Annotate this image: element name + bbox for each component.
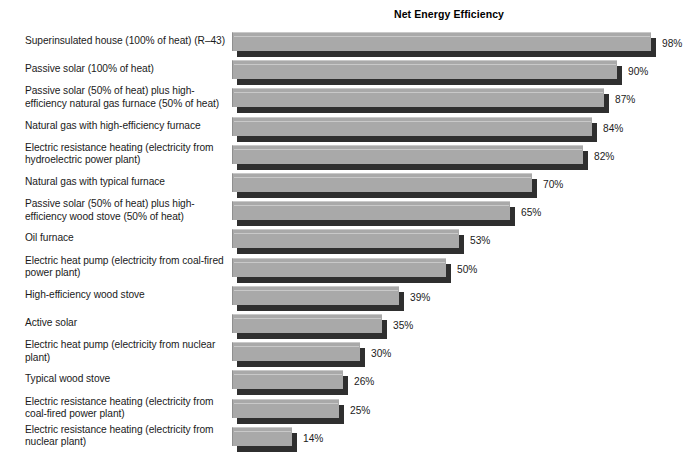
bar-face xyxy=(232,427,292,446)
bar-row: Natural gas with high-efficiency furnace… xyxy=(0,117,699,143)
bar-row-label: Natural gas with high-efficiency furnace xyxy=(25,120,230,132)
chart-root: Net Energy Efficiency Superinsulated hou… xyxy=(0,0,699,473)
bar-value-label: 82% xyxy=(594,151,614,163)
bar-face xyxy=(232,342,360,361)
bar-row-label-line: coal-fired power plant) xyxy=(25,408,230,420)
bar-row-label-line: Electric heat pump (electricity from nuc… xyxy=(25,339,230,351)
bar-face xyxy=(232,88,604,107)
bar-rows-container: Superinsulated house (100% of heat) (R–4… xyxy=(0,0,699,473)
bar xyxy=(232,342,367,368)
bar-face xyxy=(232,201,510,220)
bar-row-label-line: Typical wood stove xyxy=(25,373,230,385)
bar-row-label-line: Electric resistance heating (electricity… xyxy=(25,424,230,436)
bar-face xyxy=(232,399,339,418)
bar-value-label: 70% xyxy=(543,179,563,191)
bar-row-label-line: High-efficiency wood stove xyxy=(25,289,230,301)
bar-row: Superinsulated house (100% of heat) (R–4… xyxy=(0,32,699,58)
bar-row: Passive solar (50% of heat) plus high-ef… xyxy=(0,201,699,227)
bar-row-label: Oil furnace xyxy=(25,232,230,244)
bar-face xyxy=(232,314,382,333)
bar-value-label: 35% xyxy=(393,320,413,332)
bar-row-label-line: plant) xyxy=(25,352,230,364)
bar-value-label: 65% xyxy=(521,207,541,219)
bar xyxy=(232,32,658,58)
bar xyxy=(232,117,599,143)
bar-row-label-line: Electric resistance heating (electricity… xyxy=(25,396,230,408)
bar-face xyxy=(232,286,399,305)
bar-row: Typical wood stove26% xyxy=(0,370,699,396)
bar xyxy=(232,399,346,425)
bar-row: Electric heat pump (electricity from coa… xyxy=(0,258,699,284)
bar-row: Passive solar (50% of heat) plus high-ef… xyxy=(0,88,699,114)
bar-value-label: 14% xyxy=(303,433,323,445)
bar-row-label-line: Electric resistance heating (electricity… xyxy=(25,142,230,154)
bar-row-label: High-efficiency wood stove xyxy=(25,289,230,301)
bar-value-label: 30% xyxy=(371,348,391,360)
bar-row-label: Passive solar (100% of heat) xyxy=(25,63,230,75)
bar-row-label-line: hydroelectric power plant) xyxy=(25,154,230,166)
bar-row: Natural gas with typical furnace70% xyxy=(0,173,699,199)
bar xyxy=(232,145,590,171)
bar-row: Active solar35% xyxy=(0,314,699,340)
bar-row-label: Electric heat pump (electricity from nuc… xyxy=(25,339,230,364)
bar xyxy=(232,201,517,227)
bar-row-label-line: Electric heat pump (electricity from coa… xyxy=(25,255,230,267)
bar-value-label: 87% xyxy=(615,94,635,106)
bar-row-label: Superinsulated house (100% of heat) (R–4… xyxy=(25,35,230,47)
bar xyxy=(232,427,299,453)
bar-row-label-line: Superinsulated house (100% of heat) (R–4… xyxy=(25,35,230,47)
bar-face xyxy=(232,117,592,136)
bar-row-label: Passive solar (50% of heat) plus high-ef… xyxy=(25,85,230,110)
bar xyxy=(232,173,539,199)
bar-row-label-line: nuclear plant) xyxy=(25,436,230,448)
bar-row-label-line: efficiency natural gas furnace (50% of h… xyxy=(25,98,230,110)
bar-row-label: Passive solar (50% of heat) plus high-ef… xyxy=(25,198,230,223)
bar-face xyxy=(232,173,532,192)
bar-row-label: Typical wood stove xyxy=(25,373,230,385)
bar-row-label: Natural gas with typical furnace xyxy=(25,176,230,188)
bar-value-label: 50% xyxy=(457,264,477,276)
bar-row-label: Electric resistance heating (electricity… xyxy=(25,396,230,421)
bar xyxy=(232,370,350,396)
bar-face xyxy=(232,229,459,248)
bar-row: Electric heat pump (electricity from nuc… xyxy=(0,342,699,368)
bar-value-label: 39% xyxy=(410,292,430,304)
bar-row-label: Active solar xyxy=(25,317,230,329)
bar-row-label-line: Oil furnace xyxy=(25,232,230,244)
bar-face xyxy=(232,60,617,79)
bar-face xyxy=(232,32,651,51)
bar-row: Oil furnace53% xyxy=(0,229,699,255)
bar-row: High-efficiency wood stove39% xyxy=(0,286,699,312)
bar-row: Electric resistance heating (electricity… xyxy=(0,427,699,453)
bar-row-label-line: efficiency wood stove (50% of heat) xyxy=(25,211,230,223)
bar-row-label-line: Passive solar (100% of heat) xyxy=(25,63,230,75)
bar xyxy=(232,60,624,86)
bar-row: Electric resistance heating (electricity… xyxy=(0,145,699,171)
bar-row-label-line: power plant) xyxy=(25,267,230,279)
bar-row-label: Electric heat pump (electricity from coa… xyxy=(25,255,230,280)
bar-value-label: 26% xyxy=(354,376,374,388)
bar xyxy=(232,88,611,114)
bar-row-label-line: Passive solar (50% of heat) plus high- xyxy=(25,85,230,97)
bar-value-label: 53% xyxy=(470,235,490,247)
bar-value-label: 98% xyxy=(662,38,682,50)
bar xyxy=(232,286,406,312)
bar xyxy=(232,314,389,340)
bar-row-label-line: Natural gas with high-efficiency furnace xyxy=(25,120,230,132)
bar xyxy=(232,258,453,284)
bar-value-label: 84% xyxy=(603,123,623,135)
bar-row-label-line: Natural gas with typical furnace xyxy=(25,176,230,188)
bar-row: Electric resistance heating (electricity… xyxy=(0,399,699,425)
bar-value-label: 25% xyxy=(350,405,370,417)
bar-face xyxy=(232,145,583,164)
bar-row-label: Electric resistance heating (electricity… xyxy=(25,424,230,449)
bar-value-label: 90% xyxy=(628,66,648,78)
bar xyxy=(232,229,466,255)
bar-row: Passive solar (100% of heat)90% xyxy=(0,60,699,86)
bar-face xyxy=(232,370,343,389)
bar-row-label-line: Passive solar (50% of heat) plus high- xyxy=(25,198,230,210)
bar-face xyxy=(232,258,446,277)
bar-row-label-line: Active solar xyxy=(25,317,230,329)
bar-row-label: Electric resistance heating (electricity… xyxy=(25,142,230,167)
